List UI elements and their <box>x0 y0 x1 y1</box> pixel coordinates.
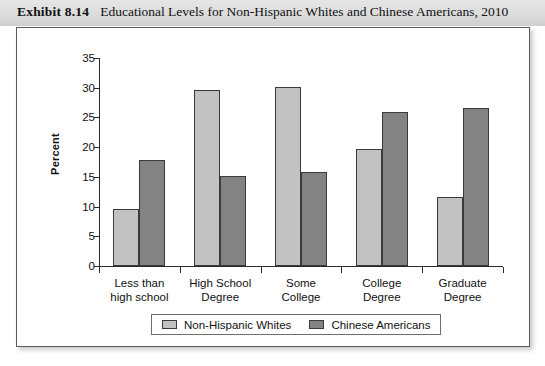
exhibit-header-text: Exhibit 8.14Educational Levels for Non-H… <box>17 4 508 20</box>
x-axis-category-label: GraduateDegree <box>422 276 503 304</box>
legend-swatch-icon-series-1 <box>162 320 177 329</box>
x-axis-tick <box>99 267 100 273</box>
y-axis-tick-label: 0 <box>89 260 95 272</box>
category-label-line: High School <box>180 276 261 290</box>
legend-item-series-2: Chinese Americans <box>309 319 430 331</box>
x-axis-tick <box>261 267 262 273</box>
y-axis-tick-label: 25 <box>82 111 95 123</box>
y-axis-tick-label: 10 <box>82 201 95 213</box>
category-label-line: Some <box>261 276 342 290</box>
y-axis-tick-label: 5 <box>89 230 95 242</box>
chart-axis-area: 05101520253035 Less thanhigh schoolHigh … <box>99 58 503 266</box>
exhibit-header-band: Exhibit 8.14Educational Levels for Non-H… <box>0 0 545 26</box>
y-axis-tick-label: 35 <box>82 52 95 64</box>
x-axis-category-label: High SchoolDegree <box>180 276 261 304</box>
y-axis-tick-label: 30 <box>82 82 95 94</box>
exhibit-caption: Educational Levels for Non-Hispanic Whit… <box>100 4 508 19</box>
legend-item-series-1: Non-Hispanic Whites <box>162 319 291 331</box>
chart-legend: Non-Hispanic Whites Chinese Americans <box>151 314 441 335</box>
bar-group <box>99 58 503 266</box>
figure-frame: Percent 05101520253035 Less thanhigh sch… <box>16 27 530 347</box>
chart-plot-wrapper: Percent 05101520253035 Less thanhigh sch… <box>17 28 531 348</box>
category-label-line: high school <box>99 290 180 304</box>
exhibit-figure: Exhibit 8.14Educational Levels for Non-H… <box>0 0 545 366</box>
legend-label-series-2: Chinese Americans <box>331 319 430 331</box>
y-axis-tick-label: 15 <box>82 171 95 183</box>
exhibit-number: Exhibit 8.14 <box>17 4 89 19</box>
x-axis-category-label: Less thanhigh school <box>99 276 180 304</box>
bar <box>463 108 489 266</box>
bar <box>437 197 463 266</box>
x-axis-category-label: CollegeDegree <box>341 276 422 304</box>
y-axis-tick-label: 20 <box>82 141 95 153</box>
category-label-line: College <box>261 290 342 304</box>
x-axis-tick <box>503 267 504 273</box>
category-label-line: Degree <box>341 290 422 304</box>
legend-label-series-1: Non-Hispanic Whites <box>184 319 291 331</box>
category-label-line: Degree <box>422 290 503 304</box>
category-label-line: Less than <box>99 276 180 290</box>
x-axis-tick <box>341 267 342 273</box>
category-label-line: Degree <box>180 290 261 304</box>
category-label-line: Graduate <box>422 276 503 290</box>
y-axis-label: Percent <box>49 109 61 199</box>
category-label-line: College <box>341 276 422 290</box>
x-axis-line <box>99 266 503 267</box>
x-axis-category-label: SomeCollege <box>261 276 342 304</box>
x-axis-tick <box>180 267 181 273</box>
x-axis-tick <box>422 267 423 273</box>
legend-swatch-icon-series-2 <box>309 320 324 329</box>
